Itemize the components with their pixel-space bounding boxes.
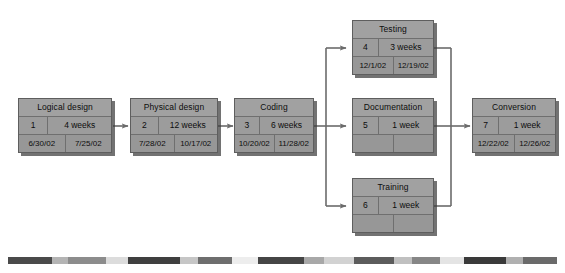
task-info-row: 4 3 weeks bbox=[353, 39, 433, 57]
task-duration: 3 weeks bbox=[379, 39, 433, 56]
task-title: Training bbox=[377, 183, 408, 192]
task-title: Logical design bbox=[37, 103, 93, 112]
rule-segment bbox=[304, 257, 324, 264]
rule-segment bbox=[106, 257, 128, 264]
task-node-documentation[interactable]: Documentation 5 1 week bbox=[352, 98, 434, 153]
task-node-training[interactable]: Training 6 1 week bbox=[352, 178, 434, 233]
rule-segment bbox=[232, 257, 258, 264]
task-dates-row bbox=[353, 135, 433, 152]
rule-segment bbox=[324, 257, 354, 264]
rule-segment bbox=[464, 257, 506, 264]
task-id: 5 bbox=[353, 117, 379, 134]
task-duration: 6 weeks bbox=[260, 117, 313, 134]
task-start-date bbox=[353, 215, 394, 232]
rule-segment bbox=[180, 257, 198, 264]
task-duration: 1 week bbox=[499, 117, 555, 134]
task-info-row: 7 1 week bbox=[473, 117, 555, 135]
task-duration: 1 week bbox=[379, 197, 433, 214]
task-node-logical-design[interactable]: Logical design 1 4 weeks 6/30/02 7/25/02 bbox=[18, 98, 112, 153]
task-title-row: Coding bbox=[235, 99, 313, 117]
task-finish-date: 12/26/02 bbox=[515, 135, 556, 152]
task-title-row: Physical design bbox=[131, 99, 217, 117]
task-dates-row: 10/20/02 11/28/02 bbox=[235, 135, 313, 152]
rule-segment bbox=[8, 257, 52, 264]
task-start-date: 7/28/02 bbox=[131, 135, 175, 152]
rule-segment bbox=[354, 257, 394, 264]
rule-segment bbox=[68, 257, 106, 264]
task-dates-row bbox=[353, 215, 433, 232]
task-id: 2 bbox=[131, 117, 159, 134]
task-finish-date: 7/25/02 bbox=[66, 135, 112, 152]
rule-segment bbox=[506, 257, 523, 264]
task-id: 7 bbox=[473, 117, 499, 134]
rule-segment bbox=[523, 257, 557, 264]
project-network-diagram: Logical design 1 4 weeks 6/30/02 7/25/02… bbox=[0, 0, 565, 273]
task-dates-row: 12/22/02 12/26/02 bbox=[473, 135, 555, 152]
task-start-date: 6/30/02 bbox=[19, 135, 66, 152]
task-duration: 1 week bbox=[379, 117, 433, 134]
task-title-row: Training bbox=[353, 179, 433, 197]
task-title-row: Conversion bbox=[473, 99, 555, 117]
task-title: Coding bbox=[260, 103, 288, 112]
task-finish-date: 12/19/02 bbox=[394, 57, 434, 74]
task-info-row: 2 12 weeks bbox=[131, 117, 217, 135]
task-info-row: 3 6 weeks bbox=[235, 117, 313, 135]
task-node-physical-design[interactable]: Physical design 2 12 weeks 7/28/02 10/17… bbox=[130, 98, 218, 153]
rule-segment bbox=[440, 257, 464, 264]
rule-segment bbox=[128, 257, 180, 264]
task-id: 3 bbox=[235, 117, 260, 134]
task-dates-row: 7/28/02 10/17/02 bbox=[131, 135, 217, 152]
task-finish-date: 10/17/02 bbox=[175, 135, 218, 152]
task-title: Testing bbox=[379, 25, 407, 34]
task-start-date: 10/20/02 bbox=[235, 135, 275, 152]
task-node-conversion[interactable]: Conversion 7 1 week 12/22/02 12/26/02 bbox=[472, 98, 556, 153]
task-info-row: 1 4 weeks bbox=[19, 117, 111, 135]
task-title: Physical design bbox=[144, 103, 205, 112]
task-start-date: 12/1/02 bbox=[353, 57, 394, 74]
rule-segment bbox=[52, 257, 68, 264]
task-title: Conversion bbox=[492, 103, 536, 112]
rule-segment bbox=[258, 257, 304, 264]
footer-striped-rule bbox=[8, 257, 557, 264]
task-duration: 12 weeks bbox=[159, 117, 217, 134]
task-id: 4 bbox=[353, 39, 379, 56]
task-title-row: Documentation bbox=[353, 99, 433, 117]
task-finish-date bbox=[394, 215, 434, 232]
task-dates-row: 12/1/02 12/19/02 bbox=[353, 57, 433, 74]
task-title: Documentation bbox=[364, 103, 422, 112]
task-title-row: Logical design bbox=[19, 99, 111, 117]
task-start-date bbox=[353, 135, 394, 152]
task-info-row: 6 1 week bbox=[353, 197, 433, 215]
task-finish-date: 11/28/02 bbox=[275, 135, 314, 152]
rule-segment bbox=[394, 257, 412, 264]
task-title-row: Testing bbox=[353, 21, 433, 39]
task-node-coding[interactable]: Coding 3 6 weeks 10/20/02 11/28/02 bbox=[234, 98, 314, 153]
task-duration: 4 weeks bbox=[48, 117, 111, 134]
rule-segment bbox=[412, 257, 440, 264]
rule-segment bbox=[198, 257, 232, 264]
task-id: 1 bbox=[19, 117, 48, 134]
task-start-date: 12/22/02 bbox=[473, 135, 515, 152]
task-id: 6 bbox=[353, 197, 379, 214]
task-dates-row: 6/30/02 7/25/02 bbox=[19, 135, 111, 152]
task-node-testing[interactable]: Testing 4 3 weeks 12/1/02 12/19/02 bbox=[352, 20, 434, 75]
task-finish-date bbox=[394, 135, 434, 152]
task-info-row: 5 1 week bbox=[353, 117, 433, 135]
